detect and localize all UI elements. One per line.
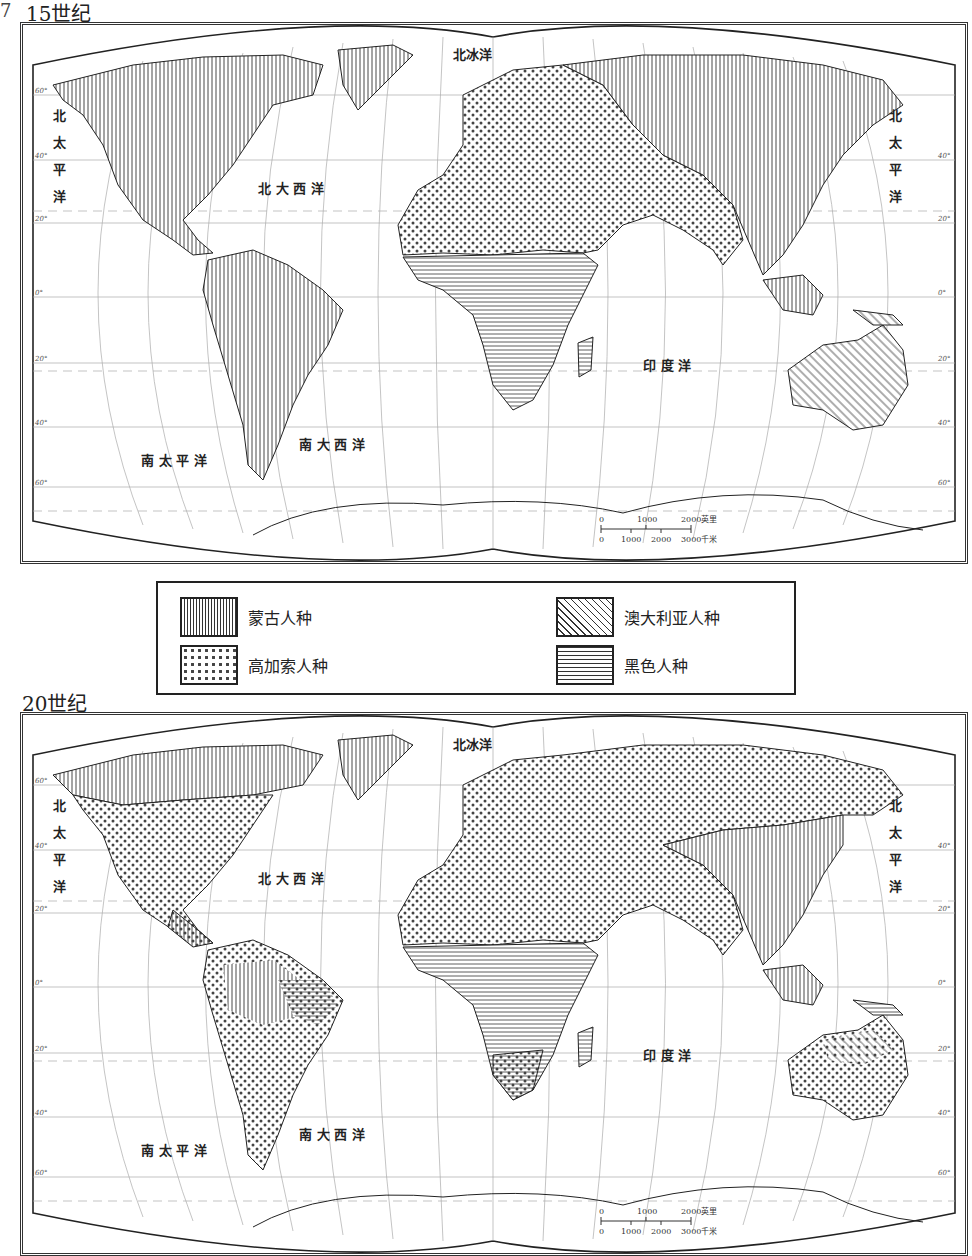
map-15th-century: 北冰洋 北 太 平 洋 北 太 平 洋 北 大 西 洋 南 太 平 洋 南 大 …: [20, 22, 968, 564]
svg-text:1000: 1000: [637, 1207, 657, 1216]
legend-label: 蒙古人种: [248, 605, 312, 629]
svg-text:0°: 0°: [35, 979, 43, 987]
legend-label: 高加索人种: [248, 653, 328, 677]
svg-text:40°: 40°: [937, 419, 950, 427]
label-north-pacific-left-4: 洋: [53, 879, 66, 894]
question-number: 7: [0, 0, 11, 21]
legend-label: 黑色人种: [624, 653, 688, 677]
svg-text:1000: 1000: [621, 1227, 641, 1236]
label-arctic-ocean: 北冰洋: [453, 737, 492, 752]
map-20th-century: 北冰洋 北 太 平 洋 北 太 平 洋 北 大 西 洋 南 太 平 洋 南 大 …: [20, 712, 968, 1256]
svg-text:20°: 20°: [34, 215, 47, 223]
world-map-15th-century: 北冰洋 北 太 平 洋 北 太 平 洋 北 大 西 洋 南 太 平 洋 南 大 …: [23, 25, 965, 561]
svg-text:60°: 60°: [938, 1169, 950, 1177]
label-arctic-ocean: 北冰洋: [453, 47, 492, 62]
svg-text:2000: 2000: [681, 515, 701, 524]
svg-text:40°: 40°: [937, 1109, 950, 1117]
label-indian-ocean: 印 度 洋: [643, 358, 691, 373]
svg-text:20°: 20°: [34, 905, 47, 913]
svg-text:0: 0: [599, 515, 604, 524]
svg-text:20°: 20°: [937, 905, 950, 913]
svg-text:60°: 60°: [35, 777, 47, 785]
label-south-pacific: 南 太 平 洋: [141, 453, 207, 468]
svg-text:2000: 2000: [651, 535, 671, 544]
svg-text:60°: 60°: [35, 1169, 47, 1177]
label-north-pacific-right-3: 平: [889, 162, 902, 177]
label-south-atlantic: 南 大 西 洋: [299, 1127, 365, 1142]
horizontal-lines-swatch-icon: [556, 645, 614, 685]
svg-text:60°: 60°: [938, 479, 950, 487]
svg-text:0°: 0°: [938, 979, 946, 987]
label-north-atlantic: 北 大 西 洋: [258, 181, 324, 196]
svg-text:0°: 0°: [35, 289, 43, 297]
label-north-pacific-left: 北: [53, 108, 66, 123]
svg-text:20°: 20°: [34, 1045, 47, 1053]
svg-text:40°: 40°: [937, 842, 950, 850]
label-north-pacific-left: 北: [53, 798, 66, 813]
region-australia: [788, 1015, 908, 1120]
svg-text:英里: 英里: [701, 1206, 717, 1216]
label-north-pacific-right-3: 平: [889, 852, 902, 867]
svg-text:60°: 60°: [35, 87, 47, 95]
label-north-pacific-right: 北: [889, 798, 902, 813]
svg-text:40°: 40°: [937, 152, 950, 160]
svg-text:2000: 2000: [681, 1207, 701, 1216]
label-indian-ocean: 印 度 洋: [643, 1048, 691, 1063]
svg-text:0: 0: [599, 535, 604, 544]
svg-text:20°: 20°: [937, 355, 950, 363]
vertical-lines-swatch-icon: [180, 597, 238, 637]
svg-text:40°: 40°: [34, 419, 47, 427]
svg-text:0°: 0°: [938, 289, 946, 297]
label-north-pacific-right-4: 洋: [889, 189, 902, 204]
label-north-pacific-left-4: 洋: [53, 189, 66, 204]
legend-item-australoid: 澳大利亚人种: [556, 597, 720, 637]
dots-swatch-icon: [180, 645, 238, 685]
svg-text:20°: 20°: [937, 215, 950, 223]
region-sub-saharan-africa: [403, 253, 598, 410]
legend: 蒙古人种 澳大利亚人种 高加索人种 黑色人种: [156, 581, 796, 695]
label-north-pacific-right: 北: [889, 108, 902, 123]
label-north-pacific-left-3: 平: [53, 852, 66, 867]
legend-label: 澳大利亚人种: [624, 605, 720, 629]
svg-text:60°: 60°: [35, 479, 47, 487]
diagonal-lines-swatch-icon: [556, 597, 614, 637]
svg-text:40°: 40°: [34, 842, 47, 850]
svg-text:0: 0: [599, 1227, 604, 1236]
label-north-pacific-left-2: 太: [52, 135, 67, 150]
scale-bar: 0 1000 2000 英里 0 1000 2000 3000 千米: [599, 514, 717, 544]
label-north-pacific-left-2: 太: [52, 825, 67, 840]
region-australia: [788, 325, 908, 430]
svg-text:千米: 千米: [701, 1226, 717, 1236]
svg-text:3000: 3000: [681, 1227, 701, 1236]
svg-text:40°: 40°: [34, 1109, 47, 1117]
label-north-pacific-left-3: 平: [53, 162, 66, 177]
region-north-america: [53, 55, 323, 255]
label-north-pacific-right-2: 太: [888, 135, 903, 150]
svg-text:千米: 千米: [701, 534, 717, 544]
svg-text:2000: 2000: [651, 1227, 671, 1236]
svg-text:0: 0: [599, 1207, 604, 1216]
svg-text:20°: 20°: [34, 355, 47, 363]
legend-item-mongoloid: 蒙古人种: [180, 597, 312, 637]
label-north-pacific-right-4: 洋: [889, 879, 902, 894]
label-south-atlantic: 南 大 西 洋: [299, 437, 365, 452]
svg-text:1000: 1000: [637, 515, 657, 524]
world-map-20th-century: 北冰洋 北 太 平 洋 北 太 平 洋 北 大 西 洋 南 太 平 洋 南 大 …: [23, 715, 965, 1253]
svg-text:英里: 英里: [701, 514, 717, 524]
svg-text:1000: 1000: [621, 535, 641, 544]
svg-text:40°: 40°: [34, 152, 47, 160]
scale-bar: 0 1000 2000 英里 0 1000 2000 3000 千米: [599, 1206, 717, 1236]
svg-text:3000: 3000: [681, 535, 701, 544]
svg-text:20°: 20°: [937, 1045, 950, 1053]
label-north-atlantic: 北 大 西 洋: [258, 871, 324, 886]
legend-item-negroid: 黑色人种: [556, 645, 688, 685]
label-south-pacific: 南 太 平 洋: [141, 1143, 207, 1158]
label-north-pacific-right-2: 太: [888, 825, 903, 840]
legend-item-caucasoid: 高加索人种: [180, 645, 328, 685]
